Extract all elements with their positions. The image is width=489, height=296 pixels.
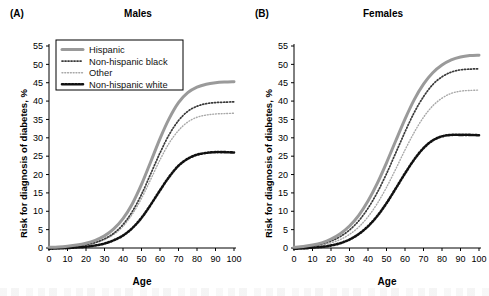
x-tick-label: 90 <box>455 254 465 264</box>
x-tick-label: 0 <box>291 254 296 264</box>
x-tick-label: 90 <box>210 254 220 264</box>
x-tick-label: 20 <box>81 254 91 264</box>
y-tick-label: 30 <box>33 133 43 143</box>
y-tick-label: 55 <box>278 41 288 51</box>
x-tick-label: 30 <box>344 254 354 264</box>
x-tick-label: 60 <box>400 254 410 264</box>
x-tick-label: 80 <box>192 254 202 264</box>
legend-label-other: Other <box>89 68 112 78</box>
y-tick-label: 0 <box>283 243 288 253</box>
y-tick-label: 20 <box>33 170 43 180</box>
legend-label-hispanic: Hispanic <box>89 45 125 55</box>
series-line-non-hispanic-white <box>294 135 479 249</box>
x-tick-label: 0 <box>46 254 51 264</box>
x-tick-label: 20 <box>326 254 336 264</box>
panel-a-males: (A) Males Risk for diagnosis of diabetes… <box>0 0 244 296</box>
series-line-non-hispanic-black <box>294 69 479 248</box>
panel-b-plot: 0510152025303540455055010203040506070809… <box>245 0 489 296</box>
x-tick-label: 30 <box>99 254 109 264</box>
x-tick-label: 80 <box>437 254 447 264</box>
x-tick-label: 60 <box>155 254 165 264</box>
x-tick-label: 10 <box>62 254 72 264</box>
y-tick-label: 10 <box>33 206 43 216</box>
series-line-other <box>294 90 479 248</box>
legend-label-non-hispanic-black: Non-hispanic black <box>89 57 168 67</box>
x-tick-label: 40 <box>118 254 128 264</box>
figure-diabetes-risk-by-age: (A) Males Risk for diagnosis of diabetes… <box>0 0 489 296</box>
y-tick-label: 10 <box>278 206 288 216</box>
y-tick-label: 40 <box>33 96 43 106</box>
y-tick-label: 15 <box>33 188 43 198</box>
y-tick-label: 50 <box>33 60 43 70</box>
legend-label-non-hispanic-white: Non-hispanic white <box>89 80 168 90</box>
series-line-other <box>49 113 234 247</box>
x-tick-label: 50 <box>136 254 146 264</box>
y-tick-label: 5 <box>283 225 288 235</box>
panel-b-females: (B) Females Risk for diagnosis of diabet… <box>245 0 489 296</box>
series-line-hispanic <box>49 82 234 248</box>
y-tick-label: 35 <box>278 115 288 125</box>
y-tick-label: 35 <box>33 115 43 125</box>
series-line-non-hispanic-black <box>49 102 234 248</box>
panel-a-plot: 0510152025303540455055010203040506070809… <box>0 0 244 296</box>
x-tick-label: 70 <box>418 254 428 264</box>
y-tick-label: 55 <box>33 41 43 51</box>
y-tick-label: 45 <box>33 78 43 88</box>
page-edge-artifact <box>0 288 489 296</box>
y-tick-label: 30 <box>278 133 288 143</box>
y-tick-label: 5 <box>38 225 43 235</box>
x-tick-label: 50 <box>381 254 391 264</box>
y-tick-label: 45 <box>278 78 288 88</box>
x-tick-label: 10 <box>307 254 317 264</box>
y-tick-label: 25 <box>33 151 43 161</box>
y-tick-label: 25 <box>278 151 288 161</box>
x-tick-label: 100 <box>471 254 486 264</box>
x-tick-label: 40 <box>363 254 373 264</box>
y-tick-label: 20 <box>278 170 288 180</box>
y-tick-label: 15 <box>278 188 288 198</box>
y-tick-label: 50 <box>278 60 288 70</box>
y-tick-label: 0 <box>38 243 43 253</box>
series-line-hispanic <box>294 55 479 247</box>
y-tick-label: 40 <box>278 96 288 106</box>
x-tick-label: 100 <box>226 254 241 264</box>
x-tick-label: 70 <box>173 254 183 264</box>
series-line-non-hispanic-white <box>49 152 234 249</box>
